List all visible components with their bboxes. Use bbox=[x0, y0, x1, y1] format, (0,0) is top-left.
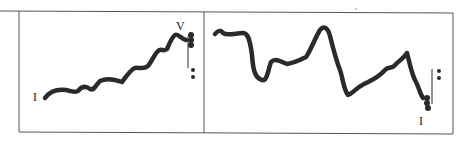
start-label-left: I bbox=[33, 90, 37, 104]
contour-figure: I V I bbox=[0, 0, 471, 143]
right-contour-line bbox=[215, 28, 423, 98]
left-contour-line bbox=[45, 35, 186, 98]
right-panel: I bbox=[215, 8, 441, 128]
left-panel: I V bbox=[33, 19, 195, 104]
cadence-marks-left bbox=[188, 32, 195, 79]
end-label-right: I bbox=[419, 114, 423, 128]
end-label-left: V bbox=[176, 19, 185, 33]
scan-speck bbox=[355, 8, 357, 10]
